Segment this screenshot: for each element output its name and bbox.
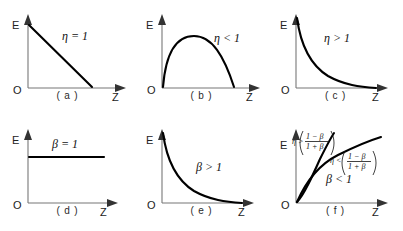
y-axis-label: E xyxy=(12,19,19,31)
curve-annotation: η > 1 xyxy=(324,31,350,45)
panel-d: E Z O β = 1 ( d ) xyxy=(0,115,135,230)
y-axis-label: E xyxy=(280,139,287,151)
annotation-eta-less-denominator: 1 + β xyxy=(348,162,365,171)
y-axis-label: E xyxy=(146,134,153,146)
panel-caption: ( a ) xyxy=(0,90,135,101)
curve-annotation: β > 1 xyxy=(195,160,222,174)
panel-caption: ( e ) xyxy=(134,205,269,216)
curve-annotation: η = 1 xyxy=(62,29,88,43)
annotation-eta-less-relation: η < xyxy=(330,156,341,165)
curve-annotation: β = 1 xyxy=(51,137,78,151)
y-axis-arrowhead xyxy=(158,14,166,25)
panel-b: E Z O η < 1 ( b ) xyxy=(134,0,269,115)
y-axis-arrowhead xyxy=(24,14,32,25)
annotation-eta-less-numerator: 1 − β xyxy=(348,152,365,161)
curve-annotation: η < 1 xyxy=(214,31,240,45)
annotation-eta-greater-denominator: 1 + β xyxy=(306,142,323,151)
data-curve xyxy=(297,18,376,88)
panel-caption: ( d ) xyxy=(0,205,135,216)
annotation-eta-greater-numerator: 1 − β xyxy=(306,132,323,141)
panel-e: E Z O β > 1 ( e ) xyxy=(134,115,269,230)
panel-caption: ( c ) xyxy=(268,90,403,101)
panel-c: E Z O η > 1 ( c ) xyxy=(268,0,403,115)
paren-right xyxy=(373,151,376,175)
panel-caption: ( f ) xyxy=(268,205,403,216)
annotation-eta-greater-relation: η > xyxy=(292,137,303,146)
figure-panel-grid: E Z O η = 1 ( a ) E Z O η < 1 ( b ) xyxy=(0,0,403,231)
y-axis-label: E xyxy=(12,134,19,146)
panel-f: E Z O η > 1 − β 1 + β η < 1 − β 1 + β xyxy=(268,115,403,230)
panel-caption: ( b ) xyxy=(134,90,269,101)
y-axis-label: E xyxy=(280,19,287,31)
y-axis-label: E xyxy=(146,19,153,31)
y-axis-arrowhead xyxy=(24,129,32,140)
panel-a: E Z O η = 1 ( a ) xyxy=(0,0,135,115)
annotation-beta-condition: β < 1 xyxy=(325,172,352,186)
